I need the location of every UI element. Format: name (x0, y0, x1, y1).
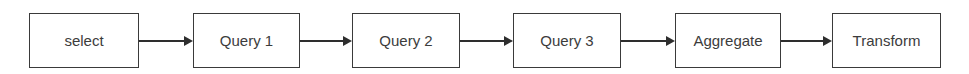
arrow-line (781, 40, 824, 42)
arrow-line (460, 40, 505, 42)
arrow-select-to-query1 (139, 40, 193, 42)
arrow-aggregate-to-transform (781, 40, 832, 42)
node-label: Query 3 (540, 32, 593, 49)
node-aggregate: Aggregate (675, 13, 781, 68)
arrow-query3-to-aggregate (621, 40, 675, 42)
arrowhead-icon (343, 36, 352, 46)
arrowhead-icon (666, 36, 675, 46)
arrow-query1-to-query2 (300, 40, 352, 42)
flow-diagram: select Query 1 Query 2 Query 3 Aggregate… (0, 0, 969, 74)
arrow-line (300, 40, 344, 42)
node-label: Query 2 (379, 32, 432, 49)
node-select: select (29, 13, 139, 68)
node-label: select (64, 32, 103, 49)
arrowhead-icon (823, 36, 832, 46)
node-query3: Query 3 (513, 13, 621, 68)
arrowhead-icon (504, 36, 513, 46)
node-label: Query 1 (220, 32, 273, 49)
arrow-line (139, 40, 185, 42)
node-label: Aggregate (693, 32, 762, 49)
node-label: Transform (853, 32, 921, 49)
arrow-query2-to-query3 (460, 40, 513, 42)
node-query2: Query 2 (352, 13, 460, 68)
node-query1: Query 1 (193, 13, 300, 68)
arrowhead-icon (184, 36, 193, 46)
arrow-line (621, 40, 667, 42)
node-transform: Transform (832, 13, 941, 68)
